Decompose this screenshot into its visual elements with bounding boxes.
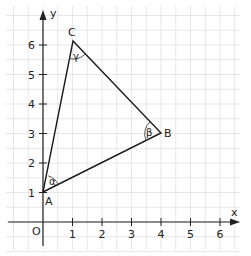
coordinate-diagram: x y O 123456 123456 α β γ A B C [0,0,251,256]
angle-label-alpha: α [49,176,56,187]
grid [6,6,240,252]
y-tick-label: 3 [28,128,35,141]
y-axis-label: y [50,7,57,20]
angle-label-beta: β [146,127,152,138]
y-tick-label: 5 [28,69,35,82]
point-label-c: C [68,26,76,39]
origin-label: O [32,225,41,238]
y-axis: y [40,7,58,246]
x-tick-label: 5 [187,228,194,241]
point-label-a: A [45,195,53,208]
x-tick-label: 1 [69,228,76,241]
x-tick-label: 4 [158,228,165,241]
y-ticks: 123456 [28,39,47,200]
y-axis-arrow-icon [40,10,47,20]
point-label-b: B [164,127,172,140]
x-tick-label: 6 [217,228,224,241]
y-tick-label: 4 [28,98,35,111]
y-tick-label: 6 [28,39,35,52]
x-tick-label: 2 [99,228,106,241]
x-axis-label: x [231,206,238,219]
y-tick-label: 1 [28,187,35,200]
y-tick-label: 2 [28,157,35,170]
angle-label-gamma: γ [73,51,79,62]
x-tick-label: 3 [128,228,135,241]
